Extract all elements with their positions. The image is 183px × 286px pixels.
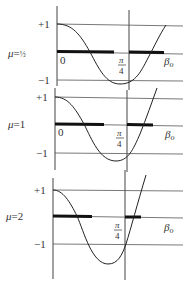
minus-one-line [55, 153, 183, 154]
stable-band [129, 52, 164, 53]
origin-label: 0 [58, 126, 64, 138]
stable-band [57, 52, 114, 53]
stable-band [127, 125, 153, 126]
mu-label: μ=½ [7, 47, 26, 59]
tick-minus-one: −1 [34, 238, 46, 250]
pi-label: π [117, 128, 122, 138]
minus-one-line [57, 80, 183, 81]
mu-label: μ=2 [5, 210, 23, 222]
beta-label: βo [163, 221, 173, 235]
mu-label: μ=1 [7, 118, 25, 130]
tick-plus-one: +1 [34, 184, 46, 196]
four-label: 4 [119, 66, 124, 76]
panel-mu-one: +1 −1 0 π 4 βo μ=1 [7, 88, 183, 172]
curve [53, 175, 146, 264]
stability-diagram: +1 −1 0 π 4 βo μ=½ +1 −1 0 π 4 βo μ=1 [0, 0, 183, 286]
four-label: 4 [117, 139, 122, 149]
plus-one-line [53, 190, 183, 191]
tick-plus-one: +1 [36, 91, 48, 103]
panel-mu-half: +1 −1 0 π 4 βo μ=½ [7, 6, 183, 90]
beta-label: βo [163, 55, 173, 69]
stable-band [53, 216, 92, 217]
tick-plus-one: +1 [38, 18, 50, 30]
pi-label: π [119, 55, 124, 65]
curve [57, 24, 166, 84]
minus-one-line [53, 244, 183, 245]
stable-band [55, 124, 104, 125]
plus-one-line [57, 24, 183, 26]
tick-minus-one: −1 [38, 74, 50, 86]
plus-one-line [55, 97, 183, 99]
origin-label: 0 [60, 54, 66, 66]
tick-minus-one: −1 [36, 147, 48, 159]
beta-label: βo [164, 128, 174, 142]
four-label: 4 [115, 231, 120, 241]
pi-label: π [115, 220, 120, 230]
panel-mu-two: +1 −1 π 4 βo μ=2 [5, 170, 183, 280]
